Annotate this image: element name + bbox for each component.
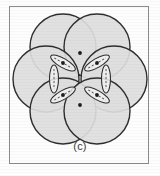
lens-group-lens-right-vertical [102,65,111,93]
lens-group-lens-left-vertical [50,65,59,93]
node-lower-right [95,93,99,97]
node-upper-left [61,61,65,65]
node-lower-left [61,93,65,97]
node-upper-right [95,61,99,65]
circles-layer [13,14,147,144]
figure-container: (c) [0,0,160,176]
node-bottom [78,103,82,107]
node-top [78,51,82,55]
figure-caption-label: (c) [0,140,160,152]
